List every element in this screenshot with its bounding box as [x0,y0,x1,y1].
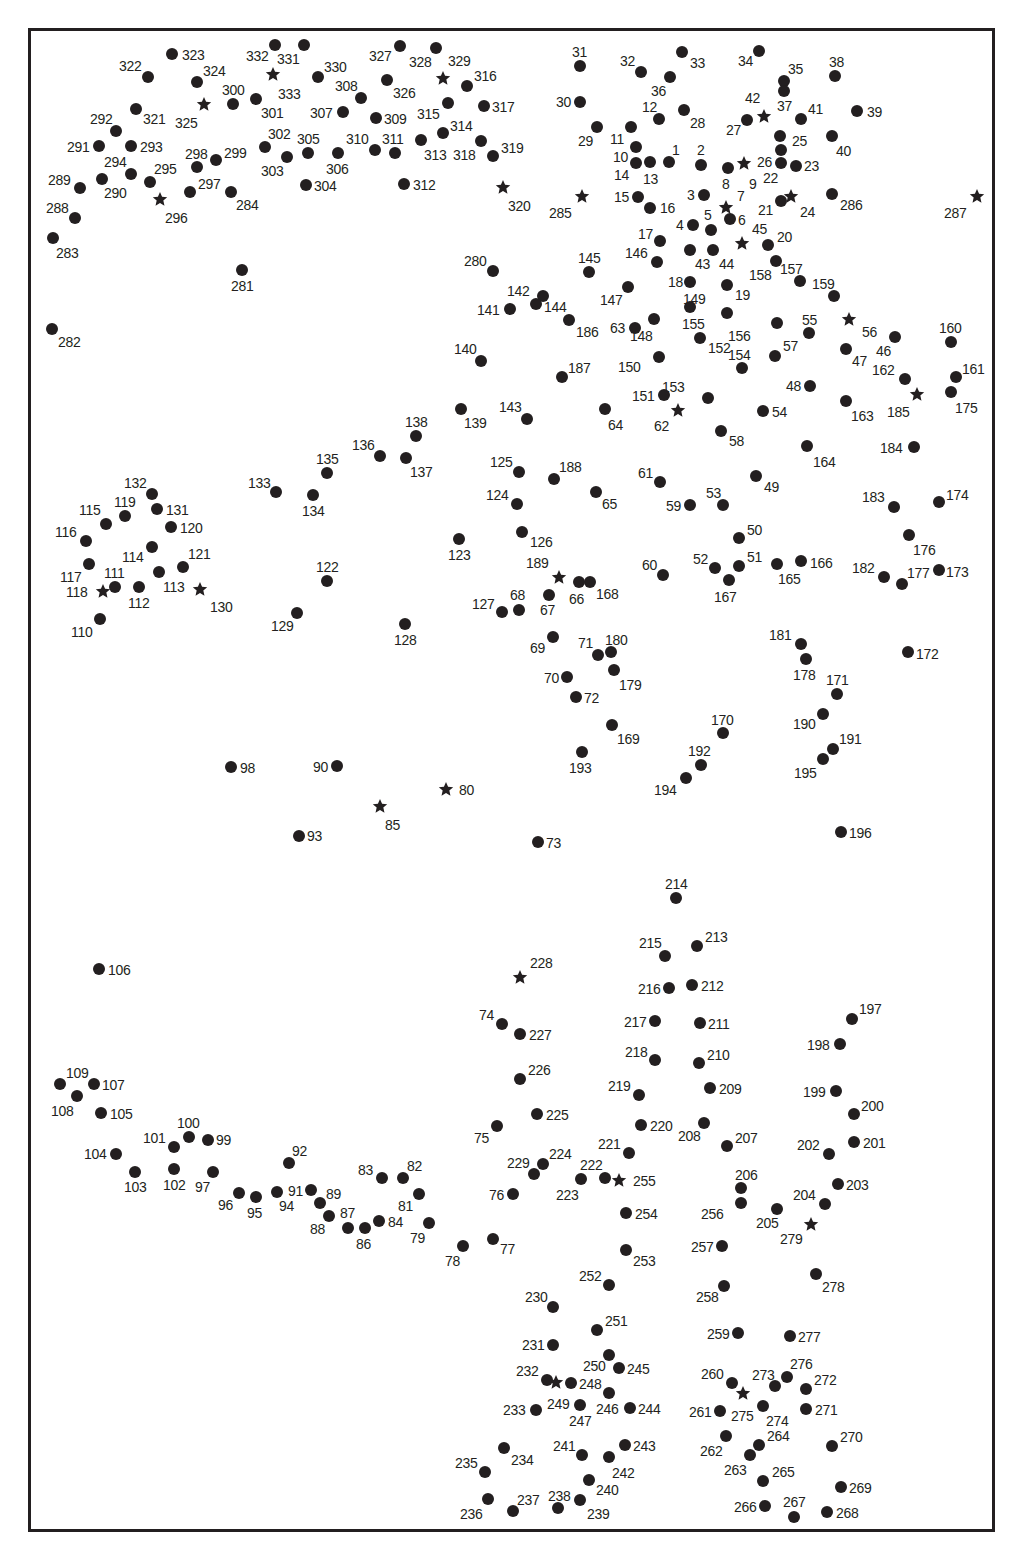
dot-marker [233,1187,245,1199]
dot-number-label: 92 [292,1144,307,1158]
dot-number-label: 251 [605,1314,627,1328]
dot-number-label: 56 [862,325,877,339]
dot-number-label: 63 [610,321,625,335]
dot-marker [823,1148,835,1160]
dot-number-label: 195 [794,766,816,780]
dot-marker [359,1222,371,1234]
dot-marker [575,1173,587,1185]
dot-marker [584,576,596,588]
star-icon [736,155,752,171]
dot-marker [410,430,422,442]
dot-number-label: 95 [247,1206,262,1220]
dot-number-label: 113 [163,580,184,594]
dot-number-label: 329 [448,54,470,68]
dot-marker [125,140,137,152]
star-icon [495,179,511,195]
dot-marker [547,1301,559,1313]
dot-marker [381,74,393,86]
dot-number-label: 37 [777,99,792,113]
dot-marker [531,1108,543,1120]
dot-number-label: 299 [224,146,246,160]
dot-marker [757,1475,769,1487]
dot-number-label: 67 [540,603,555,617]
star-icon [611,1172,627,1188]
star-icon [718,199,734,215]
dot-marker [835,826,847,838]
dot-number-label: 230 [525,1290,547,1304]
dot-number-label: 2 [697,143,705,157]
dot-marker [720,1430,732,1442]
dot-number-label: 103 [124,1180,146,1194]
dot-marker [305,1184,317,1196]
dot-number-label: 76 [489,1188,504,1202]
dot-number-label: 226 [528,1063,550,1077]
dot-number-label: 9 [749,177,757,191]
dot-number-label: 148 [630,329,652,343]
dot-marker [478,100,490,112]
dot-marker [733,560,745,572]
dot-number-label: 136 [352,438,374,452]
dot-marker [514,1028,526,1040]
dot-number-label: 218 [625,1045,647,1059]
dot-marker [771,558,783,570]
dot-number-label: 256 [701,1207,723,1221]
dot-number-label: 246 [596,1402,618,1416]
dot-number-label: 100 [177,1116,199,1130]
dot-number-label: 48 [786,379,801,393]
dot-marker [590,486,602,498]
dot-number-label: 166 [810,556,832,570]
star-icon [438,781,454,797]
dot-number-label: 15 [614,190,629,204]
dot-marker [271,1186,283,1198]
dot-marker [202,1134,214,1146]
dot-number-label: 123 [448,548,470,562]
star-icon [548,1374,564,1390]
dot-number-label: 83 [358,1163,373,1177]
star-icon [196,96,212,112]
dot-marker [848,1108,860,1120]
dot-number-label: 188 [559,460,581,474]
star-icon [841,311,857,327]
dot-marker [933,496,945,508]
dot-number-label: 241 [553,1439,575,1453]
dot-number-label: 66 [569,592,584,606]
dot-number-label: 293 [140,140,162,154]
dot-number-label: 114 [122,550,143,564]
dot-marker [482,1493,494,1505]
dot-number-label: 16 [660,201,675,215]
dot-marker [281,151,293,163]
dot-marker [574,96,586,108]
dot-number-label: 146 [625,246,647,260]
dot-number-label: 266 [734,1500,756,1514]
dot-marker [795,555,807,567]
dot-marker [453,533,465,545]
dot-number-label: 110 [71,625,92,639]
dot-marker [370,112,382,124]
dot-marker [723,574,735,586]
dot-marker [800,1403,812,1415]
dot-marker [475,355,487,367]
dot-number-label: 193 [569,761,591,775]
dot-number-label: 187 [568,361,590,375]
dot-marker [331,760,343,772]
dot-number-label: 155 [682,317,704,331]
dot-marker [831,688,843,700]
dot-number-label: 204 [793,1188,815,1202]
dot-marker [576,746,588,758]
dot-number-label: 327 [369,49,391,63]
dot-marker [704,1082,716,1094]
dot-marker [337,106,349,118]
dot-number-label: 128 [394,633,416,647]
dot-marker [532,836,544,848]
dot-marker [691,940,703,952]
dot-marker [649,1015,661,1027]
dot-number-label: 319 [501,141,523,155]
dot-number-label: 1 [672,143,680,157]
dot-number-label: 284 [236,198,258,212]
dot-number-label: 209 [719,1082,741,1096]
dot-marker [829,70,841,82]
dot-number-label: 220 [650,1119,672,1133]
dot-number-label: 89 [326,1187,341,1201]
dot-number-label: 208 [678,1129,700,1143]
dot-number-label: 137 [410,465,432,479]
